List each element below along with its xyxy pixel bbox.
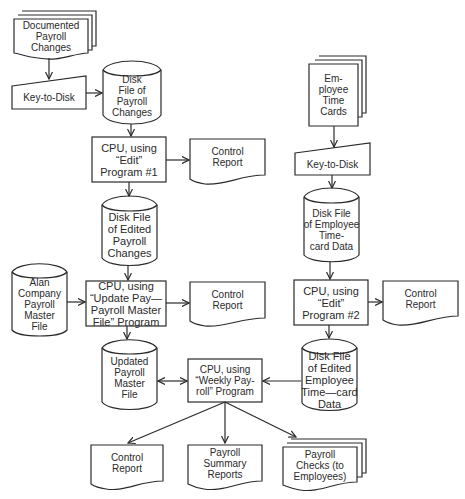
node-documented-payroll-changes: Documented Payroll Changes [14, 20, 88, 53]
node-control-report-4: Control Report [91, 446, 163, 480]
node-payroll-summary-reports: Payroll Summary Reports [188, 446, 262, 481]
node-disk-file-payroll-changes: Disk File of Payroll Changes [103, 74, 161, 118]
node-disk-file-edited-employee-timecard: Disk File of Edited Employee Time—card D… [300, 352, 359, 408]
node-updated-payroll-master-file: Updated Payroll Master File [102, 352, 157, 404]
node-payroll-checks: Payroll Checks (to Employees) [283, 448, 357, 483]
node-key-to-disk-1: Key-to-Disk [12, 86, 86, 109]
node-employee-time-cards: Em- ployee Time Cards [309, 65, 358, 125]
node-disk-file-edited-payroll-changes: Disk File of Edited Payroll Changes [102, 210, 157, 260]
node-cpu-edit-2: CPU, using “Edit” Program #2 [294, 280, 368, 325]
node-key-to-disk-2: Key-to-Disk [295, 153, 370, 175]
node-control-report-3: Control Report [383, 282, 458, 316]
node-cpu-weekly-payroll: CPU, using “Weekly Pay- roll” Program [188, 359, 262, 402]
node-control-report-1: Control Report [190, 140, 265, 174]
node-disk-file-employee-timecard: Disk File of Employee Time- card Data [302, 203, 361, 257]
node-cpu-update-master: CPU, using “Update Pay— Payroll Master F… [86, 280, 166, 327]
node-control-report-2: Control Report [190, 283, 265, 317]
node-cpu-edit-1: CPU, using “Edit” Program #1 [92, 137, 166, 182]
node-alan-company-master-file: Alan Company Payroll Master File [12, 276, 67, 332]
